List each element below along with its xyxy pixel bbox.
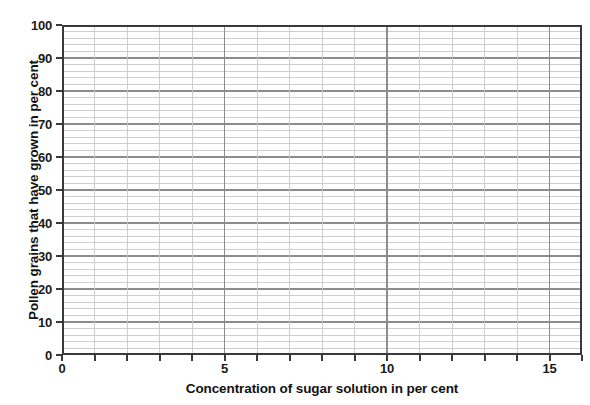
y-axis-title: Pollen grains that have grown in per cen… <box>22 25 44 355</box>
y-tick-mark <box>56 321 62 323</box>
y-tick-mark <box>56 24 62 26</box>
y-tick-mark <box>56 123 62 125</box>
x-tick-label: 0 <box>58 361 65 376</box>
x-axis-title: Concentration of sugar solution in per c… <box>62 381 582 396</box>
y-tick-label: 0 <box>45 348 52 363</box>
x-axis-tick-labels: 051015 <box>62 361 582 381</box>
x-tick-label: 15 <box>542 361 556 376</box>
y-axis-tick-marks <box>54 25 62 355</box>
y-tick-mark <box>56 156 62 158</box>
y-tick-mark <box>56 222 62 224</box>
y-tick-mark <box>56 90 62 92</box>
axis-frame <box>62 25 582 355</box>
y-tick-mark <box>56 255 62 257</box>
y-tick-mark <box>56 288 62 290</box>
chart-figure: 0102030405060708090100 051015 Pollen gra… <box>0 0 590 405</box>
y-tick-mark <box>56 57 62 59</box>
plot-area <box>62 25 582 355</box>
x-tick-label: 10 <box>380 361 394 376</box>
y-tick-mark <box>56 189 62 191</box>
x-tick-label: 5 <box>221 361 228 376</box>
